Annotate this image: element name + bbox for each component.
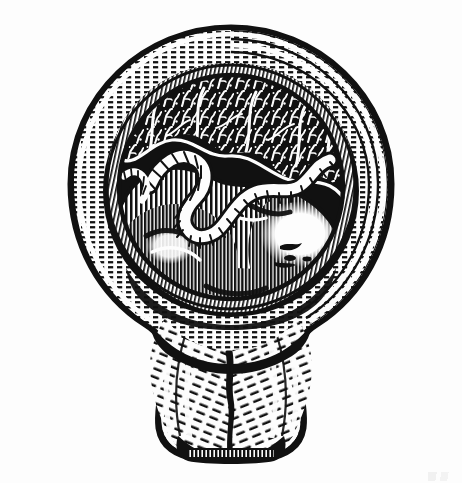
corner-smudge-artifact — [428, 472, 456, 481]
uterus-cross-section-illustration — [0, 0, 462, 483]
figure-plate-page: Uterus in cross-section at term with fet… — [0, 0, 462, 483]
external-os-comb-hatch — [188, 448, 274, 459]
